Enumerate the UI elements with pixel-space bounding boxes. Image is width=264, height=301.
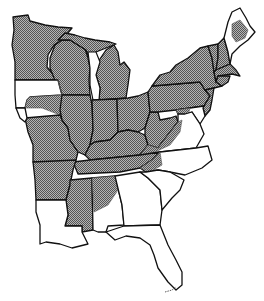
range-map: [0, 0, 264, 301]
florida-keys: [165, 287, 176, 292]
state-michigan-lower: [96, 45, 130, 100]
state-mississippi: [65, 178, 93, 232]
state-florida: [106, 225, 182, 290]
region-white-mo: [16, 108, 27, 122]
